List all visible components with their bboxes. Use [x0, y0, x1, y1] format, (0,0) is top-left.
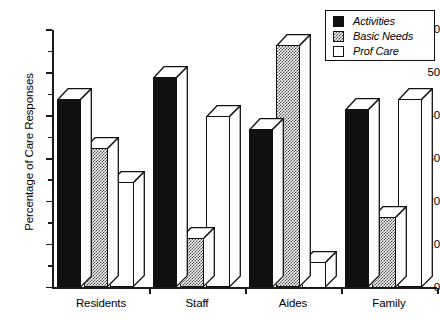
bar-activities-residents [57, 88, 92, 288]
legend-item-basic-needs: Basic Needs [333, 30, 413, 43]
y-tick-minor [48, 179, 52, 181]
y-tick-major [46, 287, 52, 289]
legend-swatch-basic-needs-icon [333, 31, 344, 42]
x-category-residents: Residents [53, 297, 149, 309]
y-tick-major [46, 72, 52, 74]
legend-item-prof-care: Prof Care [333, 45, 399, 58]
y-tick-minor [48, 137, 52, 139]
bar-activities-aides [249, 118, 284, 288]
x-tick-separator [437, 288, 439, 294]
y-tick-minor [48, 51, 52, 53]
legend-swatch-prof-care-icon [333, 46, 344, 57]
y-tick-label: 50 [396, 67, 440, 79]
x-category-staff: Staff [149, 297, 245, 309]
legend: Activities Basic Needs Prof Care [325, 10, 435, 61]
legend-label-activities: Activities [353, 16, 395, 27]
legend-label-prof-care: Prof Care [353, 46, 399, 57]
x-tick-separator [341, 288, 343, 294]
bar-chart: Percentage of Care Responses 01020304050… [0, 0, 440, 319]
y-tick-minor [48, 265, 52, 267]
y-tick-major [46, 201, 52, 203]
y-axis-title: Percentage of Care Responses [23, 27, 35, 277]
y-tick-major [46, 158, 52, 160]
x-tick-separator [149, 288, 151, 294]
y-tick-major [46, 29, 52, 31]
y-tick-minor [48, 94, 52, 96]
bar-activities-family [345, 98, 380, 287]
x-tick-separator [245, 288, 247, 294]
y-axis-line [52, 30, 54, 288]
bar-front-face [153, 77, 177, 287]
y-tick-major [46, 244, 52, 246]
bar-front-face [249, 129, 273, 288]
legend-swatch-activities-icon [333, 16, 344, 27]
y-tick-major [46, 115, 52, 117]
x-category-family: Family [341, 297, 437, 309]
bar-front-face [57, 99, 81, 288]
y-tick-minor [48, 222, 52, 224]
legend-item-activities: Activities [333, 15, 395, 28]
legend-label-basic-needs: Basic Needs [353, 31, 413, 42]
x-category-aides: Aides [245, 297, 341, 309]
bar-activities-staff [153, 66, 188, 287]
bar-front-face [345, 109, 369, 287]
